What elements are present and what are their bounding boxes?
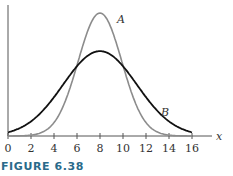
x-tick-label: 4 (51, 142, 58, 155)
x-tick-label: 6 (74, 142, 81, 155)
figure-caption: FIGURE 6.38 (1, 160, 84, 173)
x-tick-label: 14 (162, 142, 176, 155)
x-tick-label: 0 (5, 142, 12, 155)
curve-b (8, 51, 192, 132)
x-axis-label: x (216, 130, 223, 143)
x-tick-label: 16 (185, 142, 199, 155)
curve-b-label: B (160, 106, 169, 119)
x-tick-label: 2 (28, 142, 35, 155)
chart: 0246810121416 A B x (0, 0, 233, 160)
x-tick-label: 8 (97, 142, 104, 155)
curve-a-label: A (116, 13, 125, 26)
x-tick-label: 12 (139, 142, 153, 155)
x-tick-label: 10 (116, 142, 130, 155)
